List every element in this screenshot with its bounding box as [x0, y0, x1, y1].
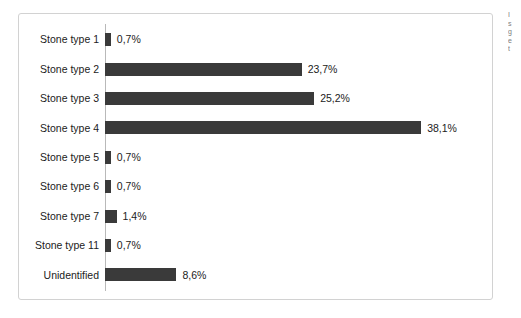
bar-track: 0,7% — [105, 25, 492, 54]
bar — [105, 239, 111, 252]
table-row: Unidentified 8,6% — [19, 260, 492, 289]
value-label: 0,7% — [117, 181, 141, 192]
value-label: 0,7% — [117, 34, 141, 45]
clipped-text-fragment: I s g e t — [508, 11, 521, 55]
fragment-line: I — [508, 11, 521, 20]
bar-track: 0,7% — [105, 172, 492, 201]
bar-track: 25,2% — [105, 84, 492, 113]
table-row: Stone type 2 23,7% — [19, 54, 492, 83]
value-label: 25,2% — [320, 93, 350, 104]
table-row: Stone type 6 0,7% — [19, 172, 492, 201]
category-label: Stone type 11 — [19, 240, 105, 251]
plot-bottom-padding — [19, 290, 492, 302]
chart-frame: Stone type 1 0,7% Stone type 2 23,7% Sto… — [18, 13, 493, 300]
fragment-line: s — [508, 20, 521, 29]
value-label: 38,1% — [427, 123, 457, 134]
table-row: Stone type 5 0,7% — [19, 143, 492, 172]
category-label: Stone type 2 — [19, 64, 105, 75]
category-label: Stone type 6 — [19, 181, 105, 192]
bar — [105, 268, 176, 281]
table-row: Stone type 11 0,7% — [19, 231, 492, 260]
bar-track: 8,6% — [105, 260, 492, 289]
category-label: Stone type 4 — [19, 123, 105, 134]
fragment-line: t — [508, 45, 521, 54]
bar-track: 0,7% — [105, 231, 492, 260]
bar-track: 1,4% — [105, 201, 492, 230]
category-label: Stone type 1 — [19, 34, 105, 45]
fragment-line: e — [508, 37, 521, 46]
table-row: Stone type 1 0,7% — [19, 25, 492, 54]
fragment-line: g — [508, 28, 521, 37]
bar — [105, 63, 302, 76]
value-label: 0,7% — [117, 240, 141, 251]
category-label: Stone type 7 — [19, 211, 105, 222]
plot-area: Stone type 1 0,7% Stone type 2 23,7% Sto… — [19, 14, 492, 299]
bar — [105, 210, 117, 223]
table-row: Stone type 4 38,1% — [19, 113, 492, 142]
category-label: Unidentified — [19, 270, 105, 281]
bar-rows: Stone type 1 0,7% Stone type 2 23,7% Sto… — [19, 25, 492, 302]
screenshot-root: Stone type 1 0,7% Stone type 2 23,7% Sto… — [0, 0, 521, 318]
table-row: Stone type 7 1,4% — [19, 201, 492, 230]
value-label: 8,6% — [182, 270, 206, 281]
bar — [105, 180, 111, 193]
value-label: 23,7% — [308, 64, 338, 75]
value-label: 0,7% — [117, 152, 141, 163]
table-row: Stone type 3 25,2% — [19, 84, 492, 113]
bar-track: 23,7% — [105, 54, 492, 83]
bar — [105, 92, 314, 105]
category-label: Stone type 5 — [19, 152, 105, 163]
bar-track: 38,1% — [105, 113, 492, 142]
value-label: 1,4% — [123, 211, 147, 222]
bar — [105, 151, 111, 164]
bar-track: 0,7% — [105, 143, 492, 172]
bar — [105, 33, 111, 46]
category-label: Stone type 3 — [19, 93, 105, 104]
bar — [105, 121, 421, 134]
